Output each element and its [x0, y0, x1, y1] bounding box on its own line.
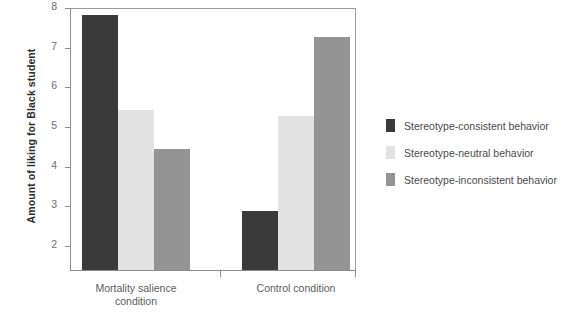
legend-swatch-inconsistent — [386, 173, 395, 186]
plot-area: 2345678 — [70, 8, 356, 270]
legend-swatch-consistent — [386, 119, 395, 132]
x-axis-label-line: condition — [61, 295, 211, 308]
y-tick-6: 6 — [65, 87, 71, 88]
y-tick-3: 3 — [65, 206, 71, 207]
bar-chart: Amount of liking for Black student 23456… — [0, 0, 561, 321]
y-tick-5: 5 — [65, 127, 71, 128]
x-axis-label-1: Mortality saliencecondition — [61, 282, 211, 308]
bar-group1-series3 — [154, 149, 190, 270]
bar-group1-series1 — [82, 15, 118, 270]
bar-group1-series2 — [118, 110, 154, 270]
y-tick-label-7: 7 — [51, 40, 57, 52]
y-tick-label-3: 3 — [51, 198, 57, 210]
legend-label-2: Stereotype-neutral behavior — [404, 147, 534, 159]
legend-item-1[interactable]: Stereotype-consistent behavior — [386, 112, 558, 139]
y-tick-label-4: 4 — [51, 159, 57, 171]
x-axis-label-line: Control condition — [221, 282, 371, 295]
y-tick-label-8: 8 — [51, 0, 57, 12]
x-axis-label-line: Mortality salience — [61, 282, 211, 295]
y-tick-4: 4 — [65, 167, 71, 168]
bar-group2-series3 — [314, 37, 350, 270]
plot-right-border — [355, 8, 356, 270]
x-axis-label-2: Control condition — [221, 282, 371, 295]
legend-label-3: Stereotype-inconsistent behavior — [404, 174, 557, 186]
y-tick-label-2: 2 — [51, 238, 57, 250]
x-tick-2 — [355, 270, 356, 277]
x-tick-1 — [220, 270, 221, 277]
x-axis-line — [70, 270, 356, 271]
legend-item-2[interactable]: Stereotype-neutral behavior — [386, 139, 558, 166]
bar-group2-series1 — [242, 211, 278, 270]
y-tick-label-5: 5 — [51, 119, 57, 131]
y-tick-8: 8 — [65, 8, 71, 9]
legend-swatch-neutral — [386, 146, 395, 159]
y-tick-7: 7 — [65, 48, 71, 49]
y-axis-title: Amount of liking for Black student — [25, 21, 37, 251]
chart-legend: Stereotype-consistent behaviorStereotype… — [386, 112, 558, 193]
legend-label-1: Stereotype-consistent behavior — [404, 120, 549, 132]
y-tick-label-6: 6 — [51, 79, 57, 91]
bar-group2-series2 — [278, 116, 314, 270]
y-tick-2: 2 — [65, 246, 71, 247]
legend-item-3[interactable]: Stereotype-inconsistent behavior — [386, 166, 558, 193]
plot-top-border — [70, 8, 356, 9]
